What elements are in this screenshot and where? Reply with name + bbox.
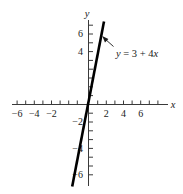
equation-annotation: y = 3 + 4x (115, 48, 159, 59)
y-tick-label-4: 4 (78, 46, 83, 57)
y-tick-label-neg2: −2 (72, 116, 83, 127)
x-tick-label-6: 6 (138, 108, 143, 119)
x-axis-label: x (170, 99, 176, 110)
x-tick-label-neg4: −4 (29, 108, 40, 119)
equation-body: = 3 + 4 (121, 48, 155, 59)
x-tick-label-neg6: −6 (12, 108, 23, 119)
x-tick-label-4: 4 (121, 108, 126, 119)
graph-figure: −6 −4 −2 2 4 6 6 4 −2 −4 −6 y x y = 3 + … (0, 0, 183, 194)
x-tick-label-neg2: −2 (46, 108, 57, 119)
y-tick-label-6: 6 (78, 28, 83, 39)
x-tick-label-2: 2 (104, 108, 109, 119)
equation-x-term: x (153, 48, 159, 59)
y-axis-label: y (84, 8, 90, 19)
cartesian-plot: −6 −4 −2 2 4 6 6 4 −2 −4 −6 y x y = 3 + … (0, 0, 183, 194)
